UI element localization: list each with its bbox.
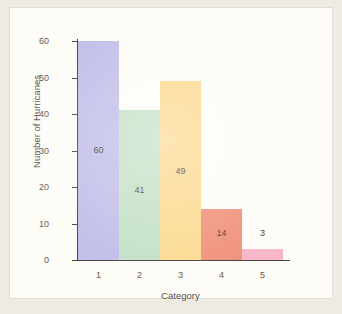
y-tick-mark	[72, 224, 77, 225]
y-tick-mark	[72, 151, 77, 152]
y-axis-title: Number of Hurricanes	[31, 52, 42, 192]
y-tick-label: 20	[9, 183, 49, 192]
x-tick-label-2: 2	[119, 270, 160, 280]
bar-value-label-1: 60	[78, 146, 119, 155]
bar-category-5[interactable]	[242, 249, 283, 260]
y-tick-mark	[72, 78, 77, 79]
x-axis-title: Category	[78, 290, 283, 301]
x-tick-label-1: 1	[78, 270, 119, 280]
bar-value-label-4: 14	[201, 229, 242, 238]
y-tick-mark	[72, 260, 77, 261]
bar-value-label-5: 3	[242, 229, 283, 238]
y-tick-mark	[72, 187, 77, 188]
x-tick-label-4: 4	[201, 270, 242, 280]
y-tick-label: 40	[9, 110, 49, 119]
y-tick-mark	[72, 114, 77, 115]
y-tick-label: 10	[9, 220, 49, 229]
scan-page-background: 6050403020100 Number of Hurricanes 60414…	[0, 0, 342, 314]
x-axis-line	[77, 260, 290, 261]
x-tick-label-3: 3	[160, 270, 201, 280]
bar-value-label-3: 49	[160, 167, 201, 176]
bar-value-label-2: 41	[119, 186, 160, 195]
x-tick-label-5: 5	[242, 270, 283, 280]
y-tick-label: 60	[9, 37, 49, 46]
plot-area: 604149143	[78, 41, 283, 260]
y-tick-mark	[72, 41, 77, 42]
y-tick-label: 50	[9, 74, 49, 83]
chart-figure-panel: 6050403020100 Number of Hurricanes 60414…	[10, 8, 332, 298]
y-tick-label: 30	[9, 147, 49, 156]
y-tick-label: 0	[9, 256, 49, 265]
